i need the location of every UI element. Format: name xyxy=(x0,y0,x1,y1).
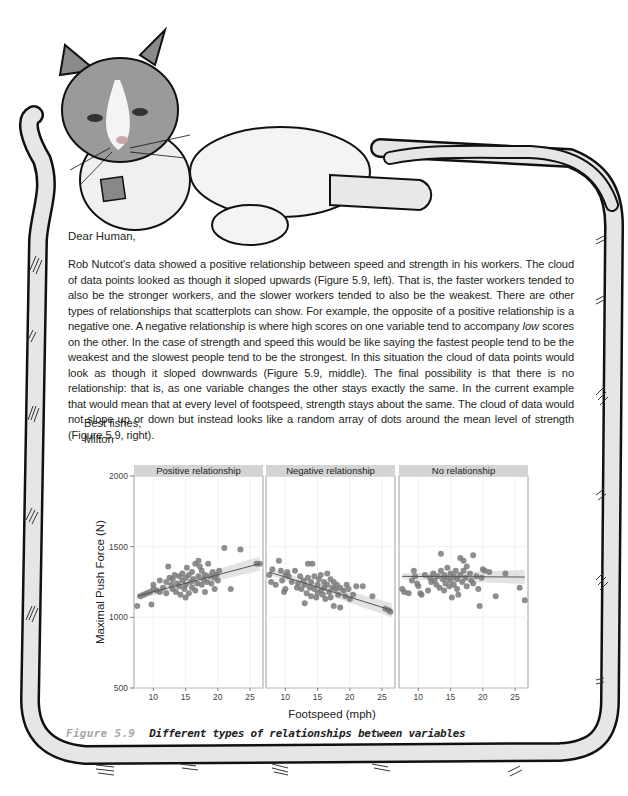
data-point xyxy=(425,587,431,593)
x-tick-label: 10 xyxy=(281,692,291,702)
x-tick-label: 25 xyxy=(245,692,255,702)
data-point xyxy=(328,595,334,601)
data-point xyxy=(470,580,476,586)
data-point xyxy=(192,587,198,593)
data-point xyxy=(150,582,156,588)
data-point xyxy=(165,563,171,569)
y-tick-label: 1000 xyxy=(109,612,128,622)
data-point xyxy=(309,561,315,567)
data-point xyxy=(186,590,192,596)
data-point xyxy=(517,585,523,591)
data-point xyxy=(467,571,473,577)
facet-title: Negative relationship xyxy=(286,465,375,476)
data-point xyxy=(148,602,154,608)
data-point xyxy=(522,597,528,603)
data-point xyxy=(282,586,288,592)
data-point xyxy=(199,582,205,588)
data-point xyxy=(278,568,284,574)
data-point xyxy=(331,603,337,609)
data-point xyxy=(486,569,492,575)
data-point xyxy=(353,583,359,589)
data-point xyxy=(134,603,140,609)
data-point xyxy=(360,583,366,589)
data-point xyxy=(350,592,356,598)
data-point xyxy=(502,571,508,577)
data-point xyxy=(411,568,417,574)
regression-line xyxy=(402,576,525,577)
figure-caption: Figure 5.9Different types of relationshi… xyxy=(66,727,465,740)
data-point xyxy=(406,590,412,596)
facet-title: Positive relationship xyxy=(156,465,241,476)
data-point xyxy=(292,568,298,574)
data-point xyxy=(157,578,163,584)
x-tick-label: 20 xyxy=(478,692,488,702)
data-point xyxy=(202,589,208,595)
data-point xyxy=(444,565,450,571)
y-tick-label: 2000 xyxy=(109,471,128,481)
y-axis-label: Maximal Push Force (N) xyxy=(94,520,106,644)
data-point xyxy=(438,551,444,557)
data-point xyxy=(369,593,375,599)
data-point xyxy=(221,545,227,551)
data-point xyxy=(454,586,460,592)
faceted-scatterplot: Positive relationship10152025Negative re… xyxy=(0,0,628,796)
data-point xyxy=(475,586,481,592)
data-point xyxy=(470,552,476,558)
data-point xyxy=(273,582,279,588)
y-tick-label: 500 xyxy=(114,683,128,693)
facet-title: No relationship xyxy=(432,465,495,476)
data-point xyxy=(337,604,343,610)
data-point xyxy=(216,568,222,574)
data-point xyxy=(464,583,470,589)
x-tick-label: 15 xyxy=(313,692,323,702)
data-point xyxy=(215,578,221,584)
x-tick-label: 20 xyxy=(213,692,223,702)
data-point xyxy=(184,565,190,571)
x-tick-label: 15 xyxy=(446,692,456,702)
figure-number: Figure 5.9 xyxy=(66,727,135,740)
x-tick-label: 10 xyxy=(414,692,424,702)
data-point xyxy=(189,569,195,575)
x-tick-label: 25 xyxy=(510,692,520,702)
data-point xyxy=(228,586,234,592)
data-point xyxy=(269,566,275,572)
data-point xyxy=(422,572,428,578)
data-point xyxy=(455,592,461,598)
data-point xyxy=(462,575,468,581)
x-tick-label: 20 xyxy=(345,692,355,702)
data-point xyxy=(163,590,169,596)
data-point xyxy=(237,546,243,552)
data-point xyxy=(346,586,352,592)
data-point xyxy=(479,575,485,581)
data-point xyxy=(276,558,282,564)
data-point xyxy=(449,595,455,601)
y-tick-label: 1500 xyxy=(109,542,128,552)
data-point xyxy=(493,593,499,599)
data-point xyxy=(441,587,447,593)
data-point xyxy=(419,592,425,598)
x-tick-label: 15 xyxy=(181,692,191,702)
data-point xyxy=(302,600,308,606)
data-point xyxy=(208,580,214,586)
data-point xyxy=(324,582,330,588)
data-point xyxy=(212,586,218,592)
data-point xyxy=(196,558,202,564)
data-point xyxy=(308,593,314,599)
data-point xyxy=(340,587,346,593)
data-point xyxy=(205,561,211,567)
x-tick-label: 10 xyxy=(149,692,159,702)
data-point xyxy=(453,568,459,574)
x-tick-label: 25 xyxy=(377,692,387,702)
data-point xyxy=(318,572,324,578)
data-point xyxy=(477,603,483,609)
figure-title: Different types of relationships between… xyxy=(149,727,465,740)
data-point xyxy=(202,572,208,578)
data-point xyxy=(464,563,470,569)
data-point xyxy=(177,592,183,598)
data-point xyxy=(415,583,421,589)
data-point xyxy=(324,571,330,577)
data-point xyxy=(461,558,467,564)
data-point xyxy=(196,573,202,579)
data-point xyxy=(279,578,285,584)
x-axis-label: Footspeed (mph) xyxy=(288,708,376,720)
